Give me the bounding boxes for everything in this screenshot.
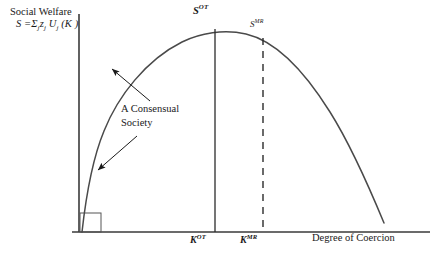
peak-label-sot: SOT: [193, 3, 208, 17]
x-axis-label: Degree of Coercion: [312, 232, 395, 244]
social-welfare-coercion-diagram: [0, 0, 438, 262]
annotation-line-1: A Consensual: [121, 102, 179, 116]
y-axis-label: Social Welfare S =Σjzj Uj (K ): [10, 6, 78, 33]
formula-argument: (K ): [61, 18, 78, 29]
y-axis-label-line1: Social Welfare: [10, 6, 78, 18]
formula-lhs: S =: [16, 18, 31, 29]
kot-label-base: K: [190, 234, 197, 245]
annotation-arrow-lower: [98, 136, 137, 170]
annotation-arrow-upper: [112, 69, 150, 101]
x-tick-label-kot: KOT: [190, 233, 206, 246]
peak-label-superscript: OT: [199, 3, 209, 10]
curve-label-superscript: MR: [255, 18, 264, 24]
formula-u-subscript: j: [56, 24, 58, 32]
annotation-consensual-society: A Consensual Society: [121, 102, 179, 130]
kot-label-superscript: OT: [197, 233, 206, 240]
welfare-curve: [82, 32, 384, 232]
kmr-label-base: K: [240, 234, 247, 245]
annotation-line-2: Society: [121, 116, 179, 130]
curve-label-smr: SMR: [250, 18, 263, 30]
kmr-label-superscript: MR: [247, 233, 258, 240]
formula-z-subscript: j: [44, 24, 46, 32]
y-axis-label-formula: S =Σjzj Uj (K ): [10, 18, 78, 33]
x-tick-label-kmr: KMR: [240, 233, 257, 246]
figure-canvas: Social Welfare S =Σjzj Uj (K ) SOT SMR K…: [0, 0, 438, 262]
